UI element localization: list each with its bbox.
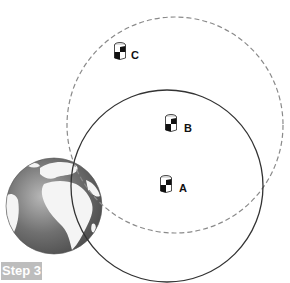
station-a-label: A [179,183,187,194]
trilateration-diagram: C B A Step 3 [0,0,290,283]
station-b-label: B [184,123,192,134]
station-b-icon [166,115,177,132]
station-a-icon [161,176,172,193]
station-c-label: C [131,50,139,61]
station-c-icon [115,43,126,60]
diagram-canvas [0,0,290,283]
step-badge: Step 3 [1,262,42,280]
